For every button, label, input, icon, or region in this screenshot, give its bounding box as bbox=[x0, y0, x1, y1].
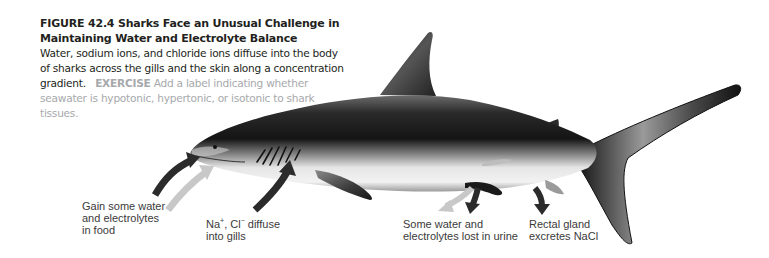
gills-line2: into gills bbox=[206, 230, 280, 242]
figure-title: FIGURE 42.4 Sharks Face an Unusual Chall… bbox=[40, 16, 350, 46]
dorsal-fin bbox=[380, 32, 436, 96]
tail-fin bbox=[578, 85, 741, 244]
label-rectal-gland: Rectal gland excretes NaCl bbox=[529, 218, 598, 242]
figure-title-line2: Maintaining Water and Electrolyte Balanc… bbox=[40, 31, 350, 46]
gills-rest: diffuse bbox=[245, 218, 280, 230]
gills-na: Na bbox=[206, 218, 220, 230]
label-food: Gain some water and electrolytes in food bbox=[82, 200, 165, 236]
arrow-urine-light bbox=[438, 188, 472, 212]
exercise-label: EXERCISE bbox=[95, 77, 150, 89]
label-gills: Na+, Cl− diffuse into gills bbox=[206, 218, 280, 242]
arrow-food-dark bbox=[155, 152, 200, 195]
figure-body: Water, sodium ions, and chloride ions di… bbox=[40, 46, 350, 121]
figure-title-line1: FIGURE 42.4 Sharks Face an Unusual Chall… bbox=[40, 16, 350, 31]
figure-caption: FIGURE 42.4 Sharks Face an Unusual Chall… bbox=[40, 16, 350, 121]
label-urine: Some water and electrolytes lost in urin… bbox=[403, 218, 518, 242]
gills-cl: , Cl bbox=[224, 218, 241, 230]
arrow-rectal-gland bbox=[534, 188, 550, 215]
